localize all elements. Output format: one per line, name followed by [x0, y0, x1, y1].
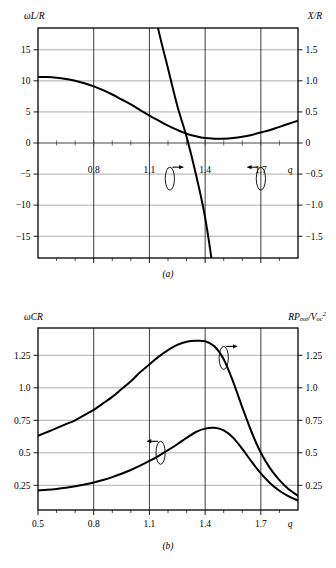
- chart-panel-b: ωCR RPout/Voc2 0.250.250.50.50.750.751.0…: [0, 290, 336, 568]
- figure-container: ωL/R X/R −15−1.5−10−1.0−5−0.50050.5101.0…: [0, 0, 336, 568]
- panel-b-plot: 0.250.250.50.50.750.751.01.01.251.250.50…: [0, 290, 336, 535]
- ytick-label-left: −15: [16, 232, 31, 242]
- xtick-label: 1.1: [143, 519, 155, 529]
- xtick-label: 0.5: [32, 519, 44, 529]
- ytick-label-right: 0.5: [306, 107, 318, 117]
- ytick-label-left: 0.25: [14, 481, 31, 491]
- xtick-label: 0.8: [88, 519, 100, 529]
- ytick-label-right: 0.5: [306, 448, 318, 458]
- data-curve-secondary: [38, 77, 298, 139]
- ytick-label-left: 15: [21, 45, 31, 55]
- ytick-label-left: 10: [21, 76, 31, 86]
- xtick-label: 0.8: [88, 165, 100, 175]
- ytick-label-right: −1.0: [306, 200, 323, 210]
- data-curve-secondary: [38, 428, 298, 501]
- ytick-label-left: −10: [16, 200, 31, 210]
- chart-panel-a: ωL/R X/R −15−1.5−10−1.0−5−0.50050.5101.0…: [0, 0, 336, 290]
- ytick-label-left: 5: [26, 107, 31, 117]
- ytick-label-right: 1.5: [306, 45, 318, 55]
- ytick-label-left: 0: [26, 138, 31, 148]
- panel-a-plot: −15−1.5−10−1.0−5−0.50050.5101.0151.50.81…: [0, 0, 336, 265]
- ytick-label-left: −5: [20, 169, 30, 179]
- ytick-label-right: 0.75: [306, 416, 323, 426]
- xtick-label: 1.4: [199, 165, 211, 175]
- xtick-label: 1.4: [199, 519, 211, 529]
- panel-b-caption: (b): [0, 541, 336, 551]
- ytick-label-right: 1.0: [306, 76, 318, 86]
- ytick-label-left: 0.75: [14, 416, 31, 426]
- ytick-label-left: 1.0: [19, 383, 31, 393]
- panel-a-caption: (a): [0, 269, 336, 279]
- ytick-label-right: −0.5: [306, 169, 323, 179]
- ytick-label-left: 0.5: [19, 448, 31, 458]
- ytick-label-right: 0.25: [306, 481, 323, 491]
- x-axis-label: q: [288, 519, 293, 529]
- ytick-label-right: 0: [306, 138, 311, 148]
- ytick-label-right: −1.5: [306, 232, 323, 242]
- left-curve-pointer: [165, 165, 183, 190]
- x-axis-label: q: [288, 165, 293, 175]
- xtick-label: 1.1: [143, 165, 155, 175]
- xtick-label: 1.7: [255, 519, 267, 529]
- ytick-label-right: 1.0: [306, 383, 318, 393]
- ytick-label-left: 1.25: [14, 351, 31, 361]
- ytick-label-right: 1.25: [306, 351, 323, 361]
